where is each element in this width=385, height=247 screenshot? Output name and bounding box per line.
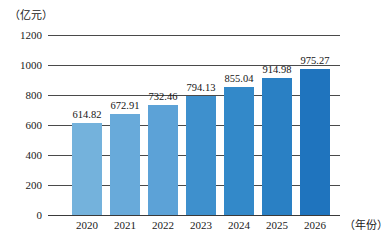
bar-value-label: 794.13 [187, 82, 216, 93]
bar[interactable] [148, 105, 178, 215]
bar-slot: 732.46 [144, 35, 182, 215]
y-axis-tick-label: 1000 [20, 60, 42, 71]
x-axis-tick-label: 2025 [258, 218, 296, 232]
bar[interactable] [72, 123, 102, 215]
bar-value-label: 975.27 [301, 55, 330, 66]
bar-slot: 614.82 [68, 35, 106, 215]
y-axis-tick-label: 1200 [20, 30, 42, 41]
y-axis-tick-label: 600 [26, 120, 43, 131]
bar-slot: 672.91 [106, 35, 144, 215]
bar-value-label: 732.46 [149, 91, 178, 102]
bar[interactable] [224, 87, 254, 215]
bar-value-label: 672.91 [111, 100, 140, 111]
plot-area: 120010008006004002000 614.82672.91732.46… [48, 35, 340, 215]
bar-slot: 914.98 [258, 35, 296, 215]
bar[interactable] [262, 78, 292, 215]
bar-value-label: 914.98 [263, 64, 292, 75]
x-axis-tick-label: 2022 [144, 218, 182, 232]
y-axis-unit-label: （亿元） [9, 8, 53, 22]
bar-slot: 855.04 [220, 35, 258, 215]
gridline [48, 215, 340, 216]
bar-value-label: 614.82 [73, 109, 102, 120]
x-axis-tick-label: 2020 [68, 218, 106, 232]
bar[interactable] [186, 96, 216, 215]
x-axis-tick-label: 2023 [182, 218, 220, 232]
bar[interactable] [110, 114, 140, 215]
bar-slot: 794.13 [182, 35, 220, 215]
bar[interactable] [300, 69, 330, 215]
bar-slot: 975.27 [296, 35, 334, 215]
y-axis-tick-label: 400 [26, 150, 43, 161]
x-axis-unit-label: （年份） [344, 218, 385, 232]
x-axis-tick-labels: 2020202120222023202420252026 [48, 218, 340, 234]
x-axis-tick-label: 2021 [106, 218, 144, 232]
bars-layer: 614.82672.91732.46794.13855.04914.98975.… [48, 35, 340, 215]
bar-value-label: 855.04 [225, 73, 254, 84]
y-axis-tick-label: 200 [26, 180, 43, 191]
x-axis-tick-label: 2024 [220, 218, 258, 232]
y-axis-tick-label: 0 [37, 210, 43, 221]
y-axis-tick-label: 800 [26, 90, 43, 101]
x-axis-tick-label: 2026 [296, 218, 334, 232]
